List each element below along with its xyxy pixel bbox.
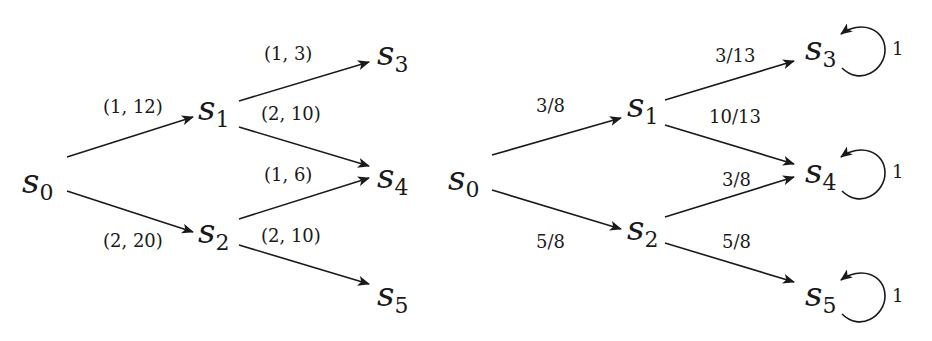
node-subscript: 4 bbox=[822, 170, 836, 195]
edge-s1-s4 bbox=[239, 127, 369, 166]
node-subscript: 3 bbox=[822, 47, 836, 72]
edge-s0-s1 bbox=[492, 118, 621, 155]
edge-label-s0-s2: (2, 20) bbox=[103, 230, 163, 251]
node-base: s bbox=[805, 274, 822, 314]
edge-s1-s3 bbox=[239, 62, 369, 101]
node-s1: s1 bbox=[627, 85, 658, 129]
node-s2: s2 bbox=[198, 211, 229, 255]
node-subscript: 2 bbox=[215, 230, 229, 255]
self-loop-s3 bbox=[841, 27, 885, 76]
node-base: s bbox=[377, 156, 394, 196]
edge-label-s1-s3: 3/13 bbox=[715, 45, 755, 66]
edge-label-s1-s4: (2, 10) bbox=[261, 103, 321, 124]
node-base: s bbox=[198, 211, 215, 251]
node-subscript: 1 bbox=[644, 104, 658, 129]
node-s4: s4 bbox=[377, 156, 408, 200]
node-base: s bbox=[805, 28, 822, 68]
node-base: s bbox=[377, 33, 394, 73]
node-base: s bbox=[22, 161, 39, 201]
node-subscript: 0 bbox=[39, 180, 53, 205]
edge-label-s0-s1: (1, 12) bbox=[103, 96, 163, 117]
node-s2: s2 bbox=[627, 208, 658, 252]
node-base: s bbox=[627, 208, 644, 248]
edge-s0-s1 bbox=[67, 117, 193, 157]
node-s1: s1 bbox=[198, 88, 229, 132]
probability-graph-right: 3/85/83/1310/133/85/8s0s1s2s3s4s5111 bbox=[448, 27, 903, 322]
node-subscript: 5 bbox=[394, 293, 408, 318]
self-loop-label-s5: 1 bbox=[892, 285, 903, 306]
self-loop-label-s3: 1 bbox=[892, 38, 903, 59]
node-base: s bbox=[448, 158, 465, 198]
node-base: s bbox=[198, 88, 215, 128]
node-s0: s0 bbox=[448, 158, 479, 202]
node-s5: s5 bbox=[805, 274, 836, 318]
weighted-graph-left: (1, 12)(2, 20)(1, 3)(2, 10)(1, 6)(2, 10)… bbox=[22, 33, 408, 318]
node-subscript: 0 bbox=[465, 177, 479, 202]
node-s5: s5 bbox=[377, 274, 408, 318]
node-base: s bbox=[627, 85, 644, 125]
node-base: s bbox=[805, 151, 822, 191]
node-subscript: 5 bbox=[822, 293, 836, 318]
edge-label-s0-s2: 5/8 bbox=[536, 231, 565, 252]
edge-s2-s5 bbox=[239, 245, 369, 284]
node-subscript: 3 bbox=[394, 52, 408, 77]
edge-label-s1-s4: 10/13 bbox=[709, 106, 761, 127]
edge-label-s1-s3: (1, 3) bbox=[264, 43, 312, 64]
node-base: s bbox=[377, 274, 394, 314]
edge-s0-s2 bbox=[67, 191, 193, 232]
edge-s1-s3 bbox=[665, 61, 794, 100]
self-loop-s5 bbox=[841, 273, 885, 322]
node-s3: s3 bbox=[377, 33, 408, 77]
edge-s1-s4 bbox=[665, 125, 794, 164]
edge-s0-s2 bbox=[492, 190, 621, 229]
edge-label-s2-s4: (1, 6) bbox=[264, 164, 312, 185]
edge-label-s0-s1: 3/8 bbox=[536, 95, 565, 116]
node-subscript: 1 bbox=[215, 107, 229, 132]
node-s0: s0 bbox=[22, 161, 53, 205]
edge-label-s2-s5: (2, 10) bbox=[261, 225, 321, 246]
node-subscript: 4 bbox=[394, 175, 408, 200]
markov-chain-diagrams: (1, 12)(2, 20)(1, 3)(2, 10)(1, 6)(2, 10)… bbox=[0, 0, 932, 341]
edge-label-s2-s5: 5/8 bbox=[722, 231, 751, 252]
node-subscript: 2 bbox=[644, 227, 658, 252]
diagram-canvas: (1, 12)(2, 20)(1, 3)(2, 10)(1, 6)(2, 10)… bbox=[0, 0, 932, 341]
node-s4: s4 bbox=[805, 151, 836, 195]
edge-label-s2-s4: 3/8 bbox=[722, 169, 751, 190]
node-s3: s3 bbox=[805, 28, 836, 72]
self-loop-s4 bbox=[841, 150, 885, 199]
self-loop-label-s4: 1 bbox=[892, 161, 903, 182]
